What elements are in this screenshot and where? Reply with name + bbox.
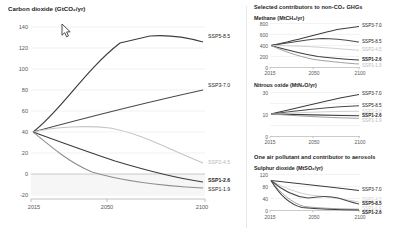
methane-line-ssp5-85 bbox=[271, 39, 359, 46]
figure-root: Carbon dioxide (GtCO₂/yr) 140 120 100 80… bbox=[0, 0, 396, 234]
methane-line-ssp1-19 bbox=[271, 46, 359, 65]
series-label-ssp1-26: SSP1-2.6 bbox=[208, 178, 230, 183]
panel-methane: Selected contributors to non-CO₂ GHGs Me… bbox=[252, 0, 396, 76]
sulphur-series-label-ssp1-26: SSP1-2.6 bbox=[362, 211, 382, 216]
gridlines-carbon-dioxide bbox=[31, 27, 205, 195]
series-label-ssp2-45: SSP2-4.5 bbox=[208, 160, 230, 165]
plot-area-sulphur-dioxide bbox=[252, 152, 396, 234]
methane-series-label-ssp5-85: SSP5-8.5 bbox=[362, 40, 382, 45]
sulphur-line-ssp3-70 bbox=[271, 181, 359, 191]
methane-series-label-ssp1-19: SSP1-1.9 bbox=[362, 64, 382, 69]
series-label-ssp1-19: SSP1-1.9 bbox=[208, 187, 230, 192]
methane-line-ssp1-26 bbox=[271, 46, 359, 61]
panel-carbon-dioxide: Carbon dioxide (GtCO₂/yr) 140 120 100 80… bbox=[0, 0, 246, 234]
panel-sulphur-dioxide: One air pollutant and contributor to aer… bbox=[252, 152, 396, 234]
sulphur-line-ssp1-19 bbox=[271, 181, 359, 210]
nitrous-series-label-ssp1-19: SSP1-1.9 bbox=[362, 119, 382, 124]
methane-series-label-ssp1-26: SSP1-2.6 bbox=[362, 58, 382, 63]
methane-series-label-ssp3-70: SSP3-7.0 bbox=[362, 24, 382, 29]
nitrous-series-label-ssp3-70: SSP3-7.0 bbox=[362, 92, 382, 97]
series-label-ssp5-85: SSP5-8.5 bbox=[208, 34, 230, 39]
panel-nitrous-oxide: Nitrous oxide (MtN₂O/yr) 30 10 0 2015 20… bbox=[252, 80, 396, 152]
nitrous-series-label-ssp5-85: SSP5-8.5 bbox=[362, 104, 382, 109]
nitrous-line-ssp5-85 bbox=[271, 106, 359, 114]
series-label-ssp3-70: SSP3-7.0 bbox=[208, 83, 230, 88]
panel-divider bbox=[246, 6, 247, 228]
methane-line-ssp3-70 bbox=[271, 27, 359, 46]
sulphur-line-ssp5-85 bbox=[271, 181, 359, 205]
sulphur-series-label-ssp3-70: SSP3-7.0 bbox=[362, 188, 382, 193]
line-ssp5-85 bbox=[33, 36, 203, 132]
methane-series-label-ssp2-45: SSP2-4.5 bbox=[362, 48, 382, 53]
